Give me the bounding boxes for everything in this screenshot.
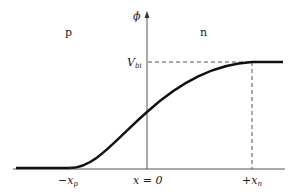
tick-label-minus-xp: −xp bbox=[58, 174, 78, 188]
region-label-p: p bbox=[65, 26, 72, 39]
potential-diagram: ϕ p n Vbi −xp x = 0 +xn bbox=[0, 0, 301, 194]
y-axis-arrow-icon bbox=[145, 11, 150, 18]
potential-curve bbox=[16, 62, 283, 168]
tick-label-plus-xn: +xn bbox=[242, 174, 262, 188]
y-axis-label: ϕ bbox=[133, 10, 141, 23]
tick-label-x0: x = 0 bbox=[133, 174, 162, 187]
vbi-label: Vbi bbox=[127, 56, 142, 70]
region-label-n: n bbox=[200, 26, 207, 39]
